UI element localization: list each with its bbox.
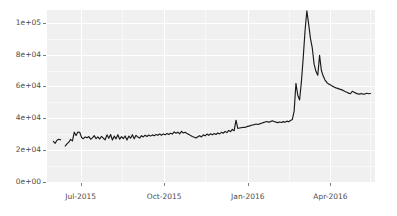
y-axis-tick-mark: [43, 23, 46, 24]
y-axis-tick-mark: [43, 150, 46, 151]
y-axis-tick-label: 4e+04: [16, 114, 41, 122]
x-axis-tick-label: Apr-2016: [313, 192, 347, 201]
x-axis-tick-label: Oct-2015: [147, 192, 182, 201]
x-axis-tick-label: Jul-2015: [65, 192, 96, 201]
x-axis-tick-mark: [164, 183, 165, 186]
x-axis-tick-mark: [330, 183, 331, 186]
x-axis-tick-mark: [81, 183, 82, 186]
series-line: [53, 11, 370, 146]
line-series: [47, 10, 375, 182]
y-axis-tick-mark: [43, 86, 46, 87]
y-axis-tick-mark: [43, 182, 46, 183]
y-axis-tick-label: 1e+05: [16, 19, 41, 27]
chart-container: 0e+002e+044e+046e+048e+041e+05 Jul-2015O…: [0, 0, 397, 216]
y-axis-tick-mark: [43, 118, 46, 119]
y-axis-tick-label: 6e+04: [16, 82, 41, 90]
x-axis-tick-label: Jan-2016: [231, 192, 264, 201]
plot-panel: [47, 10, 375, 182]
x-axis-tick-mark: [248, 183, 249, 186]
y-axis-tick-mark: [43, 55, 46, 56]
y-axis-tick-label: 0e+00: [16, 178, 41, 186]
y-axis-tick-label: 2e+04: [16, 146, 41, 154]
y-axis-tick-label: 8e+04: [16, 51, 41, 59]
